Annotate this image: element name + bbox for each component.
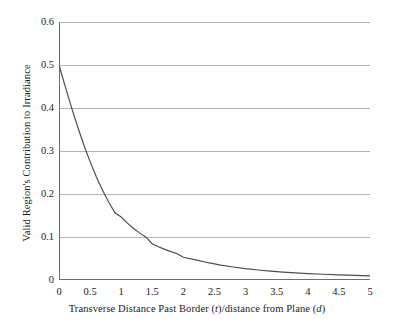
x-axis-title: Transverse Distance Past Border (t)/dist… xyxy=(0,303,394,314)
plot-area xyxy=(59,22,370,280)
y-tick-label: 0.4 xyxy=(28,103,54,113)
y-tick-label: 0.5 xyxy=(28,60,54,70)
data-curve xyxy=(59,65,370,276)
y-tick-label: 0.1 xyxy=(28,232,54,242)
x-tick-label: 5 xyxy=(350,286,390,298)
y-tick-label: 0 xyxy=(28,275,54,285)
y-tick-label: 0.2 xyxy=(28,189,54,199)
x-axis-title-seg2: )/distance from Plane ( xyxy=(218,303,316,314)
x-axis-title-seg1: Transverse Distance Past Border ( xyxy=(69,303,215,314)
y-axis-tick-labels: 00.10.20.30.40.50.6 xyxy=(22,0,54,326)
chart-figure: Valid Region's Contribution to Irradianc… xyxy=(0,0,394,326)
y-tick-label: 0.3 xyxy=(28,146,54,156)
y-tick-label: 0.6 xyxy=(28,17,54,27)
gridlines xyxy=(59,23,370,238)
x-axis-tick-labels: 00.511.522.533.544.55 xyxy=(0,286,394,300)
x-axis-title-seg3: ) xyxy=(322,303,326,314)
plot-svg xyxy=(59,22,370,280)
